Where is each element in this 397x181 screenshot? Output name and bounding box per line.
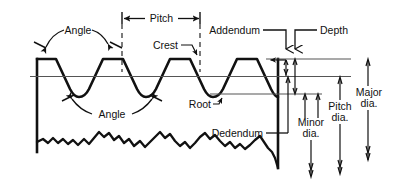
reference-lines: [30, 59, 351, 94]
pitch-dia-label-line2: dia.: [332, 111, 349, 123]
thread-profile-outline: [37, 59, 278, 168]
addendum-label: Addendum: [209, 24, 260, 36]
root-callout: Root: [189, 98, 222, 110]
depth-label: Depth: [320, 24, 348, 36]
crest-callout: Crest: [153, 39, 197, 56]
major-dia-dimension: Major dia.: [356, 59, 383, 160]
depth-callout: Depth: [295, 24, 348, 50]
thread-terminology-diagram: Pitch Angle Angle Crest Root Addendum De…: [0, 0, 397, 181]
minor-dia-dimension: Minor dia.: [298, 94, 325, 177]
pitch-label: Pitch: [150, 12, 174, 24]
addendum-callout: Addendum: [209, 24, 286, 50]
pitch-dia-dimension: Pitch dia.: [328, 77, 352, 174]
dedendum-label: Dedendum: [212, 127, 264, 139]
dedendum-callout: Dedendum: [212, 127, 288, 139]
major-dia-label-line2: dia.: [361, 97, 378, 109]
root-label: Root: [189, 98, 211, 110]
thread-diagram-svg: Pitch Angle Angle Crest Root Addendum De…: [0, 0, 397, 181]
dedendum-dimension: [286, 77, 290, 133]
angle-bottom-label: Angle: [99, 108, 126, 120]
angle-bottom-callout: Angle: [62, 95, 162, 120]
crest-label: Crest: [153, 39, 178, 51]
angle-top-label: Angle: [65, 24, 92, 36]
minor-dia-label-line2: dia.: [303, 127, 320, 139]
angle-top-callout: Angle: [34, 24, 122, 49]
